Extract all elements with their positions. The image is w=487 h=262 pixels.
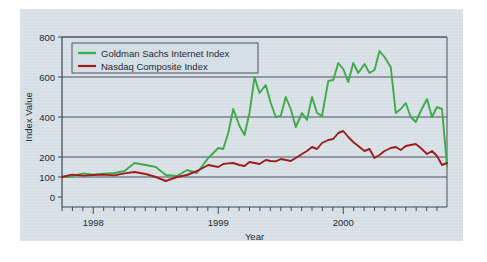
ytick-label-0: 0 [50,192,55,203]
legend-label-2: Nasdaq Composite Index [101,61,208,72]
series-line-2 [62,131,447,181]
xtick-label-1999: 1999 [208,217,229,228]
ytick-label-800: 800 [39,32,55,43]
chart-figure: 0100200400600800199819992000YearIndex Va… [0,0,487,262]
x-axis-title: Year [245,231,264,242]
ytick-label-400: 400 [39,112,55,123]
ytick-label-600: 600 [39,72,55,83]
chart-svg: 0100200400600800199819992000YearIndex Va… [0,0,487,262]
y-axis-title: Index Value [23,92,34,141]
xtick-label-2000: 2000 [333,217,354,228]
xtick-label-1998: 1998 [83,217,104,228]
ytick-label-200: 200 [39,152,55,163]
legend-label-1: Goldman Sachs Internet Index [101,48,230,59]
ytick-label-100: 100 [39,172,55,183]
